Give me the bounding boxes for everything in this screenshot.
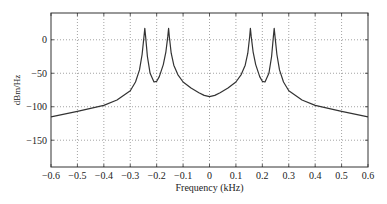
x-tick-labels: −0.6−0.5−0.4−0.3−0.2−0.100.10.20.30.40.5… (42, 170, 374, 181)
x-axis-label: Frequency (kHz) (175, 182, 243, 194)
y-tick-label: −150 (26, 135, 47, 146)
x-tick-label: −0.3 (121, 170, 139, 181)
plot-area-frame (51, 13, 368, 167)
x-tick-label: 0.5 (335, 170, 348, 181)
x-tick-label: −0.6 (42, 170, 60, 181)
x-tick-label: 0.1 (230, 170, 243, 181)
x-tick-label: 0.6 (362, 170, 375, 181)
x-tick-label: 0.2 (256, 170, 269, 181)
grid-lines (51, 13, 368, 167)
x-tick-label: −0.5 (68, 170, 86, 181)
y-axis-label: dBm/Hz (12, 75, 22, 106)
y-tick-label: 0 (42, 34, 47, 45)
y-tick-label: −100 (26, 101, 47, 112)
x-tick-label: 0.4 (309, 170, 322, 181)
x-tick-label: −0.4 (95, 170, 113, 181)
psd-chart: −0.6−0.5−0.4−0.3−0.2−0.100.10.20.30.40.5… (0, 0, 387, 204)
y-tick-label: −50 (31, 68, 47, 79)
y-tick-labels: 0−50−100−150 (26, 34, 47, 145)
axis-ticks (51, 13, 368, 167)
x-tick-label: −0.1 (174, 170, 192, 181)
x-tick-label: 0.3 (283, 170, 296, 181)
x-tick-label: 0 (207, 170, 212, 181)
x-tick-label: −0.2 (148, 170, 166, 181)
